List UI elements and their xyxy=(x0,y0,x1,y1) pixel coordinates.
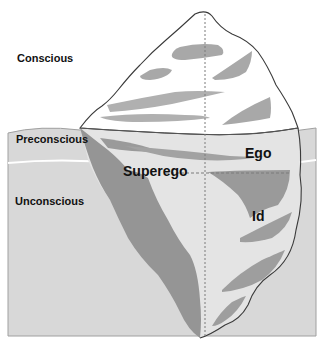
level-label-conscious: Conscious xyxy=(17,52,73,64)
structure-label-ego: Ego xyxy=(245,145,271,161)
structure-label-superego: Superego xyxy=(123,163,188,179)
level-label-preconscious: Preconscious xyxy=(16,133,88,145)
iceberg-diagram: Conscious Preconscious Unconscious Ego S… xyxy=(0,0,324,345)
structure-label-id: Id xyxy=(252,208,264,224)
level-label-unconscious: Unconscious xyxy=(15,195,84,207)
